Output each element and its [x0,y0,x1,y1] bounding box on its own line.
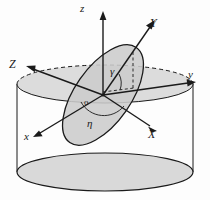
X-axis-label: X [148,128,155,140]
Y-axis-label: Y [150,17,157,29]
origin-label: o [84,98,89,107]
origin-point [101,93,104,96]
gamma-angle-label: γ [110,66,114,77]
figure-container: z Y Z y o γ η x X [0,0,210,200]
z-axis-label: z [80,3,84,14]
cylinder-bottom-ellipse [17,153,193,191]
geometry-diagram-svg [0,0,210,200]
Z-axis-label: Z [9,58,16,70]
eta-angle-label: η [87,118,92,129]
x-axis-arrowhead [33,130,43,137]
x-axis-label: x [24,131,29,142]
y-axis-label: y [188,69,193,80]
Z-axis-arrowhead [26,65,36,72]
z-axis-arrowhead [100,11,107,20]
